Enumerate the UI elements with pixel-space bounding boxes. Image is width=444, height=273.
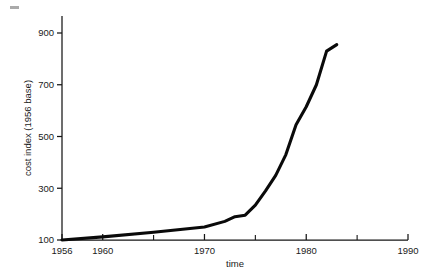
y-tick-label-700: 700 <box>38 79 54 90</box>
data-series-line <box>62 45 337 240</box>
line-chart-canvas: 100300500700900 19561960197019801990 tim… <box>0 0 444 273</box>
x-axis-tick-labels: 19561960197019801990 <box>51 245 418 256</box>
y-axis-title: cost index (1956 base) <box>22 80 33 176</box>
chart-figure: 100300500700900 19561960197019801990 tim… <box>0 0 444 273</box>
y-tick-label-300: 300 <box>38 183 54 194</box>
y-tick-label-500: 500 <box>38 131 54 142</box>
x-tick-label-1956: 1956 <box>51 245 72 256</box>
y-axis-tick-labels: 100300500700900 <box>38 27 54 245</box>
scan-artifact <box>10 6 19 9</box>
x-tick-label-1970: 1970 <box>194 245 215 256</box>
y-axis: 100300500700900 <box>38 16 62 245</box>
x-tick-label-1960: 1960 <box>92 245 113 256</box>
y-axis-ticks <box>57 33 62 240</box>
x-tick-label-1980: 1980 <box>296 245 317 256</box>
y-tick-label-900: 900 <box>38 27 54 38</box>
x-axis-title: time <box>226 258 244 269</box>
x-tick-label-1990: 1990 <box>397 245 418 256</box>
